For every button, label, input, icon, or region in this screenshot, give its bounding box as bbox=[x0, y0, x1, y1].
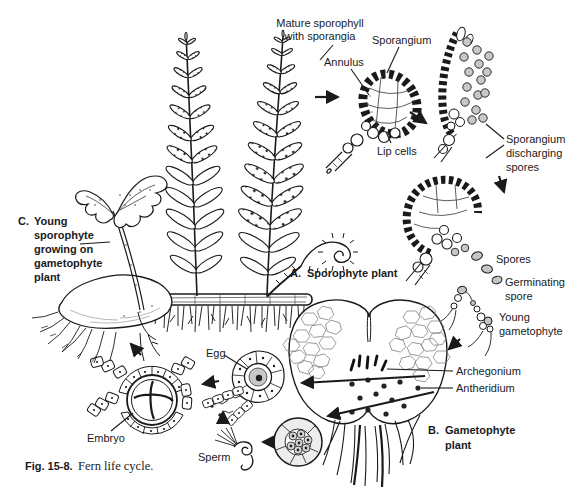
caption-text: Fern life cycle. bbox=[78, 459, 153, 473]
label-young-gametophyte-line2: gametophyte bbox=[499, 325, 563, 337]
fern-life-cycle-figure: Mature sporophyll with sporangia Sporang… bbox=[0, 0, 584, 495]
label-young-gametophyte-line1: Young bbox=[499, 311, 530, 323]
sporangium-discharging-2 bbox=[406, 180, 478, 285]
egg-illustration bbox=[202, 351, 284, 426]
label-sperm: Sperm bbox=[198, 451, 230, 463]
label-lip-cells: Lip cells bbox=[377, 145, 417, 157]
arrow-egg-to-embryo bbox=[203, 381, 219, 384]
arrow-embryo-to-sporophyte bbox=[131, 344, 141, 355]
label-discharging-line1: Sporangium bbox=[506, 133, 565, 145]
label-sporangium: Sporangium bbox=[372, 34, 431, 46]
section-a-letter: A. bbox=[290, 267, 301, 279]
roots bbox=[155, 306, 304, 332]
section-b-letter: B. bbox=[428, 424, 439, 436]
label-egg: Egg bbox=[206, 347, 226, 359]
label-antheridium: Antheridium bbox=[456, 382, 515, 394]
section-c-line5: plant bbox=[34, 271, 61, 283]
section-b-line2: plant bbox=[445, 439, 472, 451]
section-b-line1: Gametophyte bbox=[445, 424, 515, 436]
label-mature-sporophyll-line1: Mature sporophyll bbox=[276, 17, 363, 29]
sporangium-stalk bbox=[326, 134, 363, 174]
label-annulus: Annulus bbox=[324, 56, 364, 68]
figure-caption: Fig. 15-8. Fern life cycle. bbox=[25, 459, 153, 473]
frond-right bbox=[236, 30, 306, 278]
germinating-spore-illustration bbox=[441, 285, 467, 330]
rhizome bbox=[150, 294, 312, 332]
young-gametophyte-illustration bbox=[465, 291, 493, 356]
embryo-illustration bbox=[87, 356, 196, 434]
label-germinating-line1: Germinating bbox=[505, 276, 565, 288]
sporophyte-plant-illustration bbox=[150, 30, 358, 332]
section-c-letter: C. bbox=[18, 215, 29, 227]
label-spores: Spores bbox=[496, 253, 531, 265]
leaf-blade-left bbox=[76, 191, 114, 223]
section-a-text: Sporophyte plant bbox=[307, 267, 398, 279]
sporangium-illustration bbox=[326, 65, 427, 174]
arrow-gametophyte-growth bbox=[449, 339, 460, 349]
label-discharging-line3: spores bbox=[506, 161, 540, 173]
label-discharging-line2: discharging bbox=[506, 147, 562, 159]
label-embryo: Embryo bbox=[87, 432, 125, 444]
antheridium-detail-illustration bbox=[274, 418, 322, 466]
leaf-blade-right bbox=[114, 176, 167, 227]
arrow-down-to-discharge2 bbox=[499, 176, 504, 192]
diagram-canvas: Mature sporophyll with sporangia Sporang… bbox=[0, 0, 584, 495]
label-mature-sporophyll-line2: with sporangia bbox=[284, 30, 357, 42]
section-c-line4: gametophyte bbox=[34, 257, 102, 269]
caption-figure-number: Fig. 15-8. bbox=[25, 460, 73, 472]
rhizoids bbox=[323, 415, 420, 487]
label-germinating-line2: spore bbox=[505, 290, 533, 302]
label-archegonium: Archegonium bbox=[456, 365, 521, 377]
young-sporophyte-illustration bbox=[32, 176, 172, 363]
sporangium-discharging-1 bbox=[434, 26, 493, 162]
section-c-line1: Young bbox=[34, 215, 67, 227]
frond-stem-right bbox=[267, 37, 283, 296]
section-c-line3: growing on bbox=[34, 243, 94, 255]
section-c-line2: sporophyte bbox=[34, 229, 94, 241]
